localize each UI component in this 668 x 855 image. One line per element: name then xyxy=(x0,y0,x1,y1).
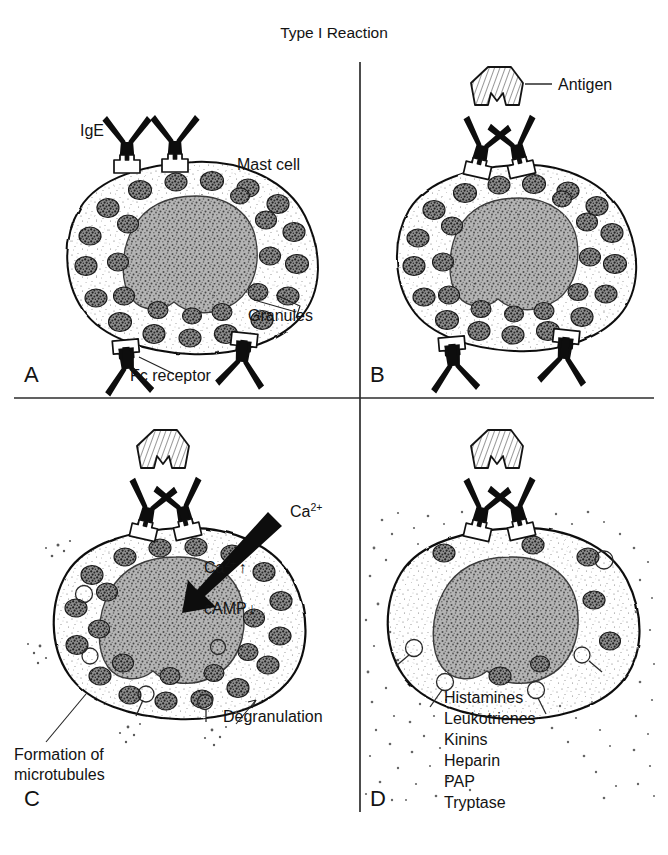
granule xyxy=(600,632,621,650)
granule xyxy=(442,217,463,235)
label-antigen: Antigen xyxy=(558,76,612,93)
mediator-item: PAP xyxy=(444,773,475,790)
granule xyxy=(269,627,291,645)
granule xyxy=(439,286,460,304)
granule xyxy=(454,184,477,203)
microtubules-leader xyxy=(46,694,86,742)
granule xyxy=(488,176,510,194)
granule xyxy=(568,284,588,301)
granule xyxy=(89,667,111,685)
granule xyxy=(114,287,135,305)
granule xyxy=(75,257,97,276)
granule xyxy=(571,308,593,327)
granule xyxy=(85,289,107,307)
granule xyxy=(522,536,544,554)
granule xyxy=(118,215,139,233)
granule xyxy=(531,656,550,672)
label-calcium-influx: Ca2+ xyxy=(290,501,322,520)
granule xyxy=(204,665,224,682)
panel-d: Histamines Leukotrienes Kinins Heparin P… xyxy=(365,430,655,811)
granule xyxy=(81,566,103,585)
granule xyxy=(238,644,258,661)
granule xyxy=(109,313,132,332)
granule xyxy=(212,304,232,321)
mediator-item: Kinins xyxy=(444,731,488,748)
granule xyxy=(433,544,455,562)
granule xyxy=(553,191,572,207)
granule xyxy=(79,227,101,245)
granule xyxy=(583,591,605,609)
granule xyxy=(155,692,177,710)
granule xyxy=(534,303,554,320)
granule xyxy=(505,306,524,322)
granule xyxy=(468,322,490,341)
granule xyxy=(403,257,425,276)
granule xyxy=(201,172,224,191)
granule xyxy=(97,583,118,601)
granule xyxy=(471,301,491,318)
granule xyxy=(577,213,598,231)
label-formation-microtubules-line2: microtubules xyxy=(14,766,105,783)
label-fc-receptor: Fc receptor xyxy=(130,367,212,384)
mediator-item: Tryptase xyxy=(444,794,506,811)
granule xyxy=(183,308,202,324)
panel-letter-d: D xyxy=(370,786,386,811)
granule xyxy=(253,563,275,582)
ige-antibody xyxy=(102,116,151,164)
granule xyxy=(502,326,524,344)
granule xyxy=(160,668,180,685)
granule xyxy=(436,311,459,330)
granule xyxy=(260,247,281,265)
granule xyxy=(143,325,165,344)
granule xyxy=(580,248,601,266)
granule xyxy=(231,188,250,204)
granule xyxy=(407,229,429,247)
granule xyxy=(66,636,88,655)
granule xyxy=(179,329,201,347)
granule xyxy=(108,253,129,271)
granule xyxy=(114,548,136,566)
mast-cell-nucleus xyxy=(433,557,578,683)
granule xyxy=(433,253,454,271)
mediator-item: Heparin xyxy=(444,752,500,769)
granule xyxy=(604,255,627,274)
granule xyxy=(523,175,546,194)
panel-a-ige-group xyxy=(102,115,199,164)
granule xyxy=(248,284,268,301)
granule xyxy=(423,201,445,220)
granule xyxy=(185,538,207,556)
panel-letter-a: A xyxy=(24,362,39,387)
granule xyxy=(148,302,168,319)
panel-a-mast-cell xyxy=(67,162,318,354)
granule xyxy=(270,592,292,611)
panel-c-mast-cell xyxy=(54,528,306,722)
label-camp: cAMP↓ xyxy=(204,600,256,617)
granule xyxy=(489,667,511,685)
granule xyxy=(165,173,187,191)
granule xyxy=(601,224,623,243)
mast-cell-nucleus xyxy=(450,198,578,310)
granule xyxy=(257,656,279,674)
granule xyxy=(129,181,152,200)
antigen xyxy=(471,430,523,468)
granule xyxy=(413,288,435,306)
label-mast-cell: Mast cell xyxy=(237,156,300,173)
label-granules: Granules xyxy=(248,307,313,324)
panel-letter-c: C xyxy=(24,786,40,811)
granule xyxy=(286,255,309,274)
panel-c: Ca2+ Ca2+↑ cAMP↓ Formation of microtubul… xyxy=(14,430,323,811)
granule xyxy=(65,599,87,617)
figure-canvas: Type I Reaction xyxy=(0,0,668,855)
antigen xyxy=(471,67,523,105)
panel-b-mast-cell xyxy=(397,165,636,351)
type-i-reaction-figure: Type I Reaction xyxy=(0,0,668,855)
granule xyxy=(595,285,617,303)
granule xyxy=(97,199,119,218)
panel-b: Antigen xyxy=(370,67,636,394)
ige-antibody xyxy=(427,342,480,394)
label-degranulation: Degranulation xyxy=(223,708,323,725)
label-ige: IgE xyxy=(80,122,104,139)
granule xyxy=(267,195,289,214)
panel-letter-b: B xyxy=(370,362,385,387)
granule xyxy=(277,287,299,305)
